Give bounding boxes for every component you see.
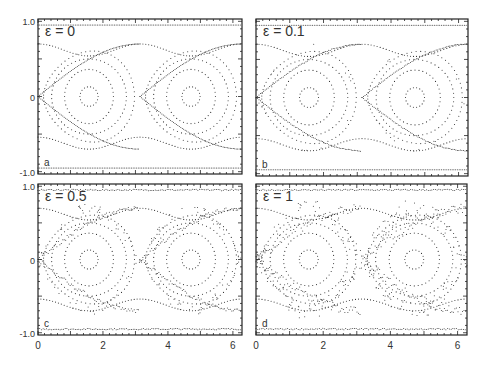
x-tick-label: 6 xyxy=(230,340,236,351)
panel-letter: a xyxy=(44,157,50,168)
x-tick-label: 0 xyxy=(35,340,41,351)
y-tick-label: 0 xyxy=(30,256,35,266)
panel-letter: d xyxy=(262,318,268,329)
panel-letter: b xyxy=(262,159,268,170)
x-tick-label: 4 xyxy=(165,340,171,351)
panel-c: ε = 0.5c1.00-1.00246 xyxy=(19,182,242,351)
y-tick-label: 0 xyxy=(30,93,35,103)
epsilon-label: ε = 0.5 xyxy=(45,188,87,204)
epsilon-label: ε = 0.1 xyxy=(263,23,305,39)
y-tick-label: -1.0 xyxy=(19,168,35,178)
figure: ε = 0a1.00-1.0ε = 0.1bε = 0.5c1.00-1.002… xyxy=(0,0,484,369)
y-tick-label: 1.0 xyxy=(22,17,35,27)
plot-frame xyxy=(256,184,467,335)
y-tick-label: -1.0 xyxy=(19,329,35,339)
panel-d: ε = 1d0246 xyxy=(253,184,467,351)
epsilon-label: ε = 1 xyxy=(263,188,293,204)
x-tick-label: 0 xyxy=(253,340,259,351)
x-tick-label: 2 xyxy=(100,340,106,351)
panel-letter: c xyxy=(44,318,49,329)
y-tick-label: 1.0 xyxy=(22,182,35,192)
x-tick-label: 4 xyxy=(388,340,394,351)
x-tick-label: 2 xyxy=(320,340,326,351)
panel-a: ε = 0a1.00-1.0 xyxy=(19,17,242,177)
x-tick-label: 6 xyxy=(455,340,461,351)
panel-b: ε = 0.1b xyxy=(255,19,468,176)
epsilon-label: ε = 0 xyxy=(45,23,75,39)
